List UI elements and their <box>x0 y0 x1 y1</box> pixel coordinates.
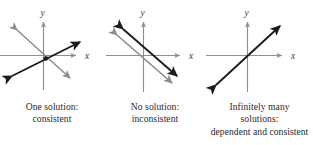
caption-infinitely-many-solutions: Infinitely many solutions: dependent and… <box>200 101 313 138</box>
caption-line-2: inconsistent <box>104 113 206 125</box>
caption-line-2: solutions: <box>200 113 313 125</box>
line-gray-parallel <box>117 35 172 83</box>
systems-of-equations-figure: x y One solution: consistent <box>0 0 313 145</box>
caption-no-solution: No solution: inconsistent <box>104 101 206 126</box>
caption-one-solution: One solution: consistent <box>0 101 104 126</box>
x-axis-label: x <box>84 51 90 61</box>
graph-infinitely-many-solutions: x y <box>206 0 313 100</box>
graph-no-solution: x y <box>104 0 206 100</box>
caption-line-2: consistent <box>0 113 104 125</box>
x-axis-label: x <box>188 51 194 61</box>
line-dark-parallel <box>123 29 177 76</box>
caption-line-3: dependent and consistent <box>200 126 313 138</box>
y-axis-label: y <box>140 8 146 18</box>
panel-infinitely-many-solutions: x y Infinitely many solutions: dependent… <box>206 0 313 145</box>
y-axis-label: y <box>244 8 250 18</box>
x-axis-label: x <box>290 51 296 61</box>
caption-line-1: One solution: <box>0 101 104 113</box>
axes-one-solution <box>0 22 76 90</box>
axes-infinitely-many-solutions <box>206 22 282 92</box>
panel-no-solution: x y No solution: inconsistent <box>104 0 206 145</box>
intersection-point <box>44 56 49 61</box>
graph-one-solution: x y <box>0 0 104 100</box>
y-axis-label: y <box>40 8 46 18</box>
caption-line-1: No solution: <box>104 101 206 113</box>
caption-line-1: Infinitely many <box>200 101 313 113</box>
panel-one-solution: x y One solution: consistent <box>0 0 104 145</box>
